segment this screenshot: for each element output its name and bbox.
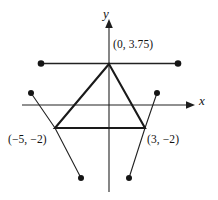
dot-top-right	[175, 60, 182, 67]
point-label-bottom-right: (3, −2)	[147, 133, 179, 145]
dot-left-lower	[78, 175, 84, 181]
dot-right-lower	[126, 175, 132, 181]
dot-right-upper	[154, 90, 160, 96]
x-axis-label: x	[199, 93, 205, 109]
y-axis-label: y	[103, 6, 109, 22]
x-axis-arrowhead	[186, 101, 195, 109]
ray-right-lower	[129, 128, 145, 178]
ray-left-lower	[55, 128, 81, 178]
dot-top-left	[38, 60, 45, 67]
ray-right-upper	[145, 93, 157, 128]
dot-left-upper	[28, 90, 34, 96]
point-label-apex: (0, 3.75)	[113, 38, 153, 50]
coordinate-plane-svg	[0, 0, 218, 200]
endpoint-dot-group	[28, 60, 181, 181]
triangle	[55, 64, 145, 128]
geometry-figure: (0, 3.75) (−5, −2) (3, −2) y x	[0, 0, 218, 200]
ray-left-upper	[31, 93, 55, 128]
point-label-bottom-left: (−5, −2)	[8, 133, 47, 145]
